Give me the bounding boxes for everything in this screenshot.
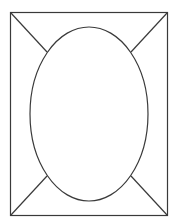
diagonal-top-right bbox=[131, 13, 168, 53]
oval bbox=[30, 27, 148, 201]
diagonal-bottom-left bbox=[11, 176, 48, 216]
rectangle-frame bbox=[11, 13, 168, 216]
diagonal-bottom-right bbox=[131, 176, 168, 216]
diagonal-top-left bbox=[11, 13, 48, 53]
frame-diagram bbox=[0, 0, 177, 224]
